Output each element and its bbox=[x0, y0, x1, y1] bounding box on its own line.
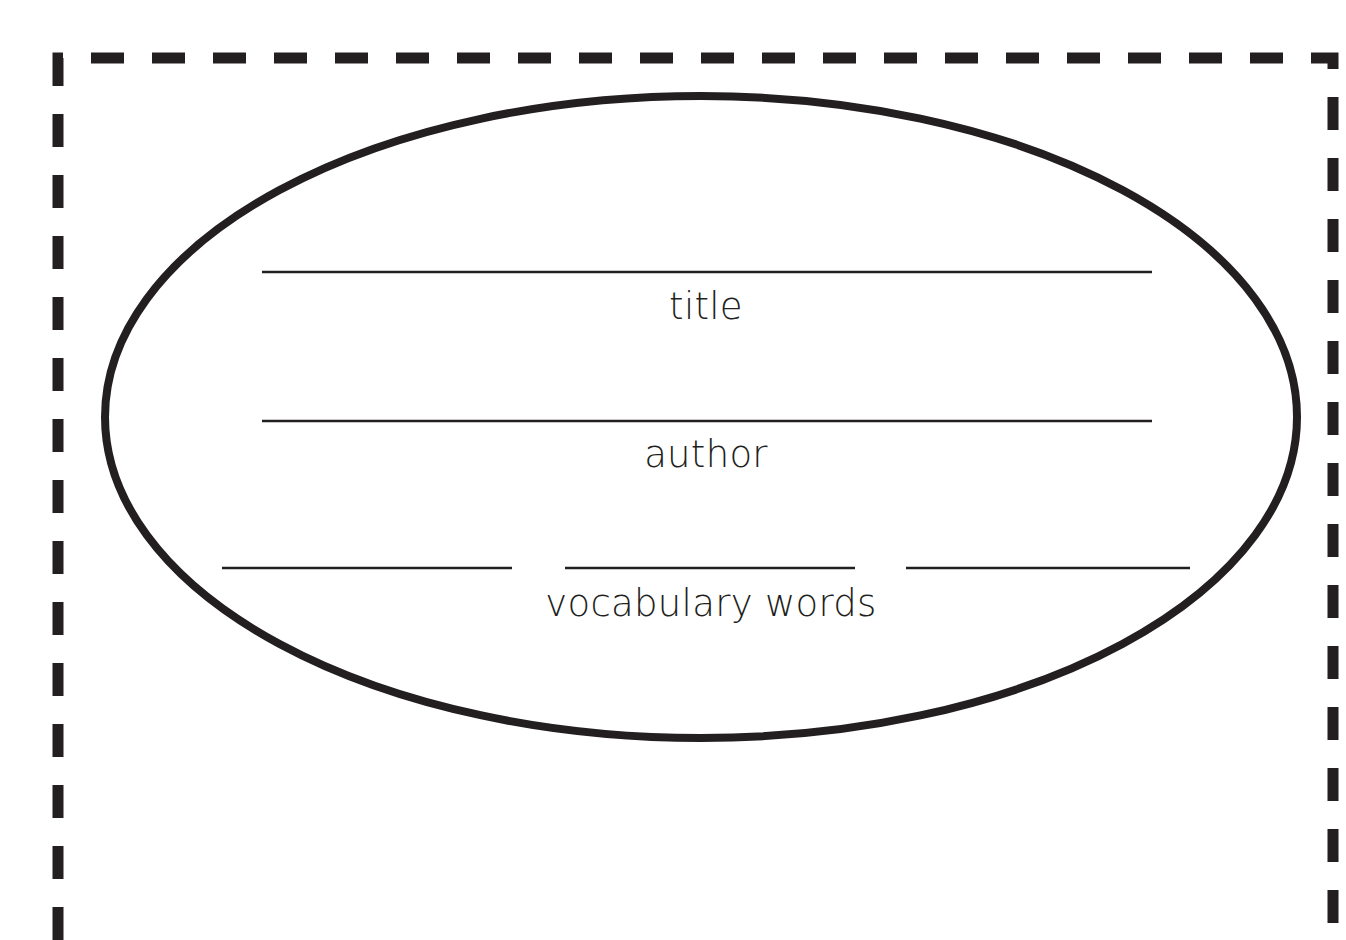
title-field-label: title bbox=[0, 285, 1346, 328]
vocabulary-field-label: vocabulary words bbox=[0, 582, 1346, 625]
ellipse-outline bbox=[105, 96, 1297, 738]
author-field-label: author bbox=[0, 433, 1346, 476]
ellipse-shape bbox=[105, 96, 1297, 738]
dashed-border-path bbox=[58, 58, 1333, 940]
dashed-border bbox=[58, 58, 1333, 940]
worksheet-page: title author vocabulary words bbox=[0, 0, 1346, 940]
